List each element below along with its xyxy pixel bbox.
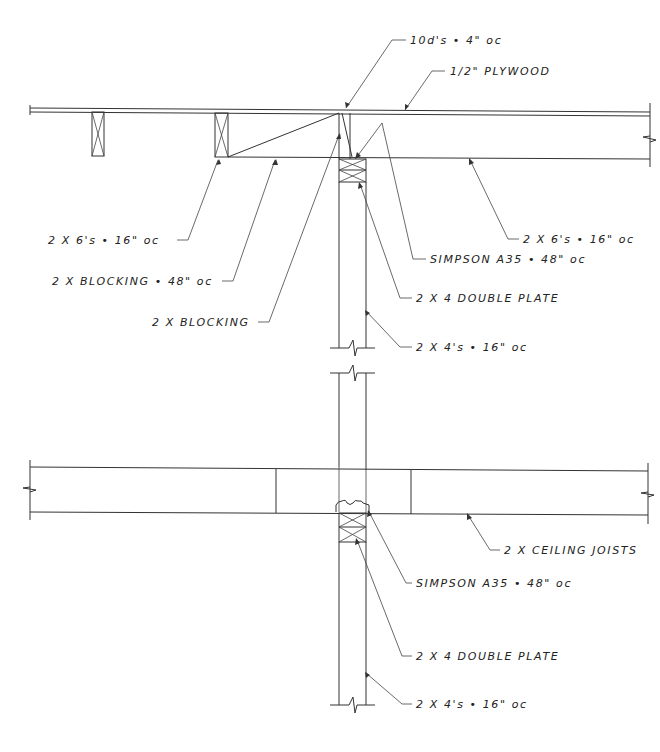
label-blocking: 2 X BLOCKING	[152, 316, 250, 329]
blocking-48oc-1	[92, 112, 104, 156]
top-double-plate-upper	[339, 159, 366, 182]
top-double-plate-lower	[339, 513, 366, 542]
label-double-plate-lower: 2 X 4 DOUBLE PLATE	[416, 650, 559, 663]
label-studs-upper: 2 X 4's • 16" oc	[416, 341, 528, 354]
label-nails: 10d's • 4" oc	[410, 34, 502, 47]
label-joists-left: 2 X 6's • 16" oc	[48, 234, 160, 247]
label-simpson-upper: SIMPSON A35 • 48" oc	[430, 253, 586, 266]
label-studs-lower: 2 X 4's • 16" oc	[416, 698, 528, 711]
plywood-sheathing	[30, 105, 650, 116]
simpson-a35-clip-lower	[336, 500, 369, 512]
label-simpson-lower: SIMPSON A35 • 48" oc	[416, 577, 572, 590]
stud-wall-lower	[330, 542, 375, 713]
floor-joist-upper	[228, 103, 656, 167]
diagonal-blocking	[228, 113, 352, 159]
label-double-plate-upper: 2 X 4 DOUBLE PLATE	[416, 292, 559, 305]
blocking-48oc-2	[215, 113, 228, 157]
label-ceiling-joists: 2 X CEILING JOISTS	[504, 544, 638, 557]
label-blocking-48: 2 X BLOCKING • 48" oc	[52, 275, 213, 288]
label-joists-right: 2 X 6's • 16" oc	[523, 233, 635, 246]
framing-detail-drawing: 10d's • 4" oc 1/2" PLYWOOD 2 X 6's • 16"…	[0, 0, 660, 752]
stud-wall-lower-top-break	[330, 365, 375, 470]
label-plywood: 1/2" PLYWOOD	[450, 65, 551, 78]
